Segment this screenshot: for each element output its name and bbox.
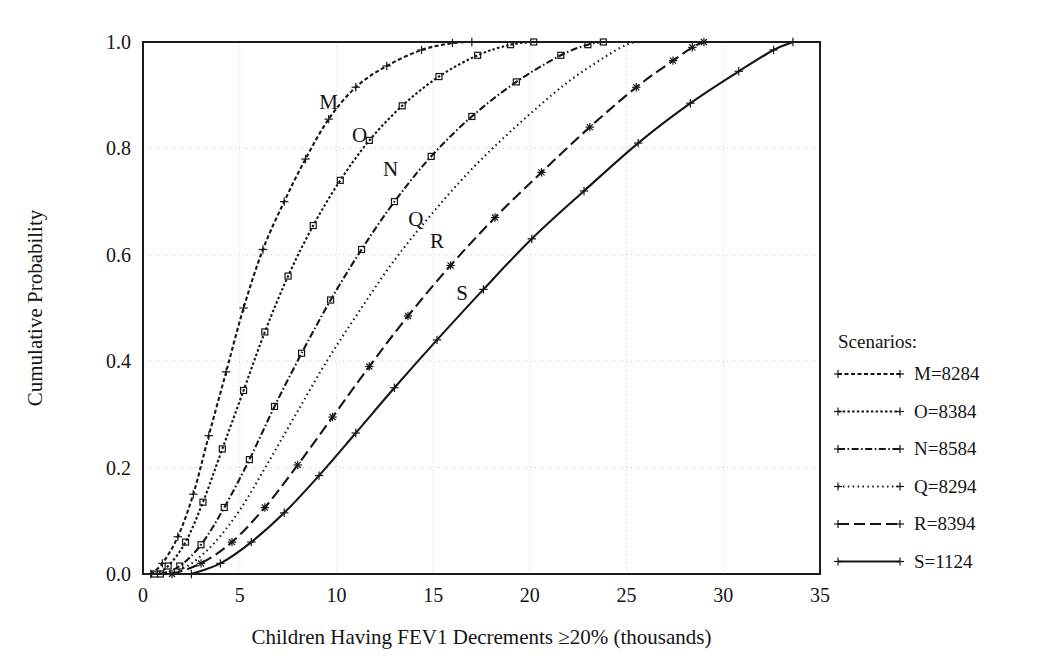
- x-tick-label: 10: [326, 584, 346, 606]
- x-tick-label: 30: [713, 584, 733, 606]
- legend-title: Scenarios:: [838, 331, 917, 352]
- x-tick-label: 20: [520, 584, 540, 606]
- legend-label-O: O=8384: [914, 401, 977, 422]
- legend-label-R: R=8394: [914, 513, 976, 534]
- series-Q[interactable]: [164, 42, 638, 574]
- y-tick-label: 0.8: [106, 137, 131, 159]
- y-tick-label: 0.2: [106, 457, 131, 479]
- curve-tag-M: M: [319, 90, 338, 114]
- legend-entry-Q[interactable]: Q=8294: [834, 476, 977, 497]
- legend-label-Q: Q=8294: [914, 476, 977, 497]
- curve-tags-group: MONQRS: [319, 90, 468, 306]
- tick-labels-group: 051015202530350.00.20.40.60.81.0Children…: [23, 31, 830, 649]
- legend-entry-S[interactable]: S=1124: [834, 551, 973, 572]
- legend-label-N: N=8584: [914, 438, 977, 459]
- x-tick-label: 15: [423, 584, 443, 606]
- curve-tag-O: O: [352, 123, 367, 147]
- series-R[interactable]: [168, 38, 708, 578]
- curve-tag-Q: Q: [408, 207, 423, 231]
- series-M[interactable]: [147, 38, 476, 578]
- y-tick-label: 1.0: [106, 31, 131, 53]
- y-axis-title: Cumulative Probability: [23, 209, 47, 406]
- figure-container: 051015202530350.00.20.40.60.81.0Children…: [0, 0, 1044, 668]
- legend-entry-M[interactable]: M=8284: [834, 363, 980, 384]
- series-O[interactable]: [152, 39, 537, 577]
- curve-tag-S: S: [456, 281, 468, 305]
- series-line-N: [160, 42, 603, 574]
- legend-label-M: M=8284: [914, 363, 980, 384]
- series-line-S: [191, 42, 793, 574]
- y-tick-label: 0.6: [106, 244, 131, 266]
- x-tick-label: 5: [235, 584, 245, 606]
- series-line-M: [151, 42, 472, 574]
- x-tick-label: 35: [810, 584, 830, 606]
- x-tick-label: 25: [617, 584, 637, 606]
- series-line-Q: [164, 42, 638, 574]
- series-S[interactable]: [187, 38, 797, 578]
- series-line-R: [172, 42, 704, 574]
- legend-label-S: S=1124: [914, 551, 973, 572]
- cumulative-probability-chart: 051015202530350.00.20.40.60.81.0Children…: [0, 0, 1044, 668]
- series-N[interactable]: [157, 39, 606, 577]
- legend-entry-R[interactable]: R=8394: [834, 513, 976, 534]
- x-tick-label: 0: [138, 584, 148, 606]
- curves-group: [147, 38, 798, 578]
- curve-tag-N: N: [383, 157, 398, 181]
- legend-entry-O[interactable]: O=8384: [834, 401, 977, 422]
- series-line-O: [155, 42, 534, 574]
- legend-group: Scenarios:M=8284O=8384N=8584Q=8294R=8394…: [834, 331, 980, 572]
- y-tick-label: 0.4: [106, 350, 131, 372]
- curve-tag-R: R: [430, 229, 444, 253]
- x-axis-title: Children Having FEV1 Decrements ≥20% (th…: [251, 625, 711, 649]
- y-tick-label: 0.0: [106, 563, 131, 585]
- legend-entry-N[interactable]: N=8584: [834, 438, 977, 459]
